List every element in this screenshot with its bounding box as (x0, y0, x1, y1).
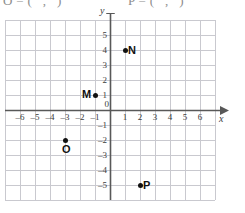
x-tick-5: 5 (178, 113, 192, 122)
point-p-answer-prompt[interactable]: P = ( , ) (128, 0, 184, 9)
y-tick-neg3: –3 (94, 151, 107, 160)
x-tick-neg4: –4 (43, 113, 57, 122)
x-tick-6: 6 (193, 113, 207, 122)
point-m-label: M (82, 89, 91, 100)
answer-prompt-row: O = ( , ) P = ( , ) (0, 0, 245, 13)
y-axis-label: y (100, 6, 104, 16)
x-tick-3: 3 (148, 113, 162, 122)
axis-lines (5, 13, 229, 200)
y-tick-neg4: –4 (94, 166, 107, 175)
origin-label: 0 (99, 100, 109, 109)
y-tick-3: 3 (94, 61, 107, 70)
coordinate-plane: –6–5–4–3–2–1012345654321–1–2–3–4–5 MNOP … (0, 13, 245, 213)
y-tick-neg5: –5 (94, 181, 107, 190)
x-tick-4: 4 (163, 113, 177, 122)
x-axis-label: x (219, 114, 223, 124)
y-tick-neg2: –2 (94, 136, 107, 145)
point-o-label: O (62, 144, 71, 155)
x-tick-neg3: –3 (58, 113, 72, 122)
x-tick-2: 2 (133, 113, 147, 122)
point-m-dot[interactable] (93, 93, 98, 98)
y-tick-neg1: –1 (94, 121, 107, 130)
x-tick-neg5: –5 (28, 113, 42, 122)
y-tick-2: 2 (94, 76, 107, 85)
point-o-answer-prompt[interactable]: O = ( , ) (3, 0, 62, 9)
x-tick-1: 1 (118, 113, 132, 122)
point-o-dot[interactable] (63, 138, 68, 143)
x-tick-neg2: –2 (73, 113, 87, 122)
point-n-dot[interactable] (123, 48, 128, 53)
point-p-dot[interactable] (138, 183, 143, 188)
y-tick-4: 4 (94, 46, 107, 55)
point-p-label: P (143, 180, 150, 191)
y-tick-5: 5 (94, 31, 107, 40)
x-tick-neg6: –6 (13, 113, 27, 122)
point-n-label: N (128, 45, 136, 56)
